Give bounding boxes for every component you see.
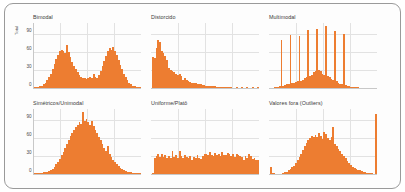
x-axis-line bbox=[151, 88, 259, 89]
x-axis-line bbox=[33, 88, 141, 89]
y-axis-tick-label: 60 bbox=[26, 46, 31, 51]
y-axis-tick-label: 90 bbox=[26, 114, 31, 119]
panel-title: Uniforme/Platô bbox=[151, 100, 187, 106]
panel-title: Multimodal bbox=[269, 14, 296, 20]
histogram-bar bbox=[343, 34, 345, 88]
plot-area bbox=[151, 109, 259, 175]
panel-title: Bimodal bbox=[33, 14, 53, 20]
histogram-panel: Uniforme/Platô bbox=[151, 100, 259, 175]
plot-area bbox=[269, 23, 377, 89]
histogram-bars bbox=[270, 109, 377, 174]
plot-area: 0306090 bbox=[33, 109, 141, 175]
histogram-bars bbox=[34, 23, 141, 88]
histogram-bar bbox=[375, 114, 377, 174]
chart-frame: Bimodal0306090TotalDistorcidoMultimodalS… bbox=[4, 3, 401, 189]
histogram-bars bbox=[270, 23, 377, 88]
panel-title: Valores fora (Outliers) bbox=[269, 100, 322, 106]
panel-title: Distorcido bbox=[151, 14, 175, 20]
histogram-panel: Simétricos/Unimodal0306090 bbox=[33, 100, 141, 175]
histogram-bar bbox=[290, 35, 292, 88]
histogram-bar bbox=[257, 160, 259, 174]
y-axis-tick-label: 30 bbox=[26, 64, 31, 69]
histogram-grid: Bimodal0306090TotalDistorcidoMultimodalS… bbox=[5, 4, 400, 188]
y-axis-line bbox=[33, 23, 34, 89]
x-axis-line bbox=[269, 174, 377, 175]
y-axis-tick-label: 0 bbox=[29, 168, 32, 173]
histogram-panel: Distorcido bbox=[151, 14, 259, 89]
y-axis-tick-label: 60 bbox=[26, 132, 31, 137]
plot-area: 0306090Total bbox=[33, 23, 141, 89]
histogram-bars bbox=[152, 23, 259, 88]
x-axis-line bbox=[151, 174, 259, 175]
y-axis-tick-label: 30 bbox=[26, 150, 31, 155]
plot-area bbox=[151, 23, 259, 89]
y-axis-tick-label: 0 bbox=[29, 82, 32, 87]
histogram-panel: Multimodal bbox=[269, 14, 377, 89]
x-axis-line bbox=[33, 174, 141, 175]
histogram-bar bbox=[334, 31, 336, 88]
histogram-bars bbox=[34, 109, 141, 174]
x-axis-line bbox=[269, 88, 377, 89]
y-axis-title: Total bbox=[14, 26, 19, 35]
y-axis-tick-label: 90 bbox=[26, 28, 31, 33]
histogram-panel: Valores fora (Outliers) bbox=[269, 100, 377, 175]
panel-title: Simétricos/Unimodal bbox=[33, 100, 83, 106]
plot-area bbox=[269, 109, 377, 175]
y-axis-line bbox=[33, 109, 34, 175]
histogram-bar bbox=[281, 40, 283, 88]
histogram-panel: Bimodal0306090Total bbox=[33, 14, 141, 89]
histogram-bars bbox=[152, 109, 259, 174]
